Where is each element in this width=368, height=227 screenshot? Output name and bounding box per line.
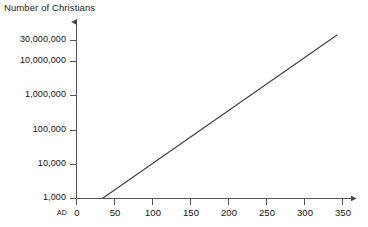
x-axis-tick-labels: 0 50 100 150 200 250 300 350 — [0, 0, 368, 227]
x-tick-label: 0 — [74, 207, 79, 218]
x-tick-label: 300 — [297, 207, 313, 218]
chart-container: Number of Christians — [0, 0, 368, 227]
x-tick-label: 50 — [110, 207, 121, 218]
x-tick-label: 100 — [145, 207, 161, 218]
x-tick-label: 350 — [335, 207, 351, 218]
x-tick-label: 200 — [221, 207, 237, 218]
x-axis-era-label: AD — [57, 209, 67, 216]
x-tick-label: 250 — [259, 207, 275, 218]
x-tick-label: 150 — [183, 207, 199, 218]
